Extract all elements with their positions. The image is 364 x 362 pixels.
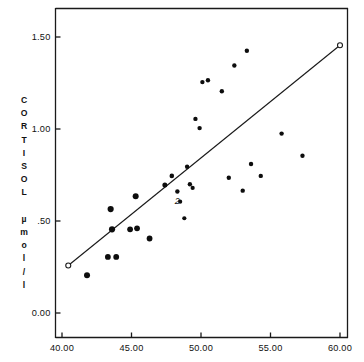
y-axis-title-char: m xyxy=(20,227,28,237)
data-point xyxy=(279,131,283,135)
y-axis-title-char: L xyxy=(21,187,26,197)
data-point xyxy=(185,165,189,169)
y-tick-label: 1.50 xyxy=(32,32,51,42)
y-tick-label: 1.00 xyxy=(32,124,51,134)
data-point xyxy=(84,272,90,278)
data-point xyxy=(259,174,263,178)
y-axis-title-char: µ xyxy=(22,214,27,224)
y-axis-title-char: O xyxy=(21,108,28,118)
y-axis-title-char: O xyxy=(21,174,28,184)
data-point xyxy=(134,225,140,231)
data-point xyxy=(175,189,179,193)
y-axis-title-char: l xyxy=(23,253,25,263)
data-point xyxy=(108,206,114,212)
data-point xyxy=(249,162,253,166)
data-point xyxy=(300,153,304,157)
y-axis-title-char: C xyxy=(21,95,27,105)
data-point xyxy=(127,226,133,232)
data-point xyxy=(182,216,186,220)
data-point xyxy=(241,188,245,192)
y-axis-title: CORTISOLµmol/l xyxy=(20,95,28,290)
data-point xyxy=(147,236,153,242)
x-tick-label: 60.00 xyxy=(328,343,352,353)
y-axis-title-char: S xyxy=(21,161,27,171)
chart-canvas: 0.00.501.001.50 40.0045.0050.0055.0060.0… xyxy=(0,0,364,362)
regression-endpoint-marker xyxy=(66,263,71,268)
y-tick-label: 0.00 xyxy=(32,308,51,318)
data-point xyxy=(113,254,119,260)
y-axis-title-char: I xyxy=(23,148,25,158)
data-point xyxy=(162,183,167,188)
y-axis-title-char: / xyxy=(23,267,26,277)
y-tick-label: .50 xyxy=(37,216,50,226)
data-point xyxy=(191,186,195,190)
data-point xyxy=(170,174,175,179)
data-point xyxy=(105,254,111,260)
data-point xyxy=(206,78,210,82)
data-point xyxy=(109,226,115,232)
y-axis-ticks: 0.00.501.001.50 xyxy=(32,32,61,318)
x-tick-label: 45.00 xyxy=(120,343,144,353)
data-point xyxy=(200,80,204,84)
y-axis-title-char: T xyxy=(21,135,27,145)
data-point xyxy=(133,193,139,199)
x-tick-label: 40.00 xyxy=(50,343,74,353)
plot-frame xyxy=(56,8,349,338)
scatter-plot-figure: 0.00.501.001.50 40.0045.0050.0055.0060.0… xyxy=(0,0,364,362)
x-tick-label: 50.00 xyxy=(189,343,213,353)
data-point xyxy=(188,182,192,186)
overlap-count-annotations: 2 xyxy=(174,196,180,206)
data-point xyxy=(220,89,224,93)
regression-endpoint-marker xyxy=(338,43,343,48)
y-axis-title-char: l xyxy=(23,280,25,290)
y-axis-title-char: o xyxy=(21,240,26,250)
x-tick-label: 55.00 xyxy=(259,343,283,353)
data-point xyxy=(227,176,231,180)
data-point xyxy=(193,117,197,121)
x-axis-ticks: 40.0045.0050.0055.0060.00 xyxy=(50,333,352,353)
regression-line-segment xyxy=(68,45,340,265)
y-axis-title-char: R xyxy=(21,121,28,131)
overlap-count-label: 2 xyxy=(174,196,180,206)
data-point xyxy=(245,49,249,53)
data-point xyxy=(232,63,236,67)
data-point xyxy=(197,126,201,130)
